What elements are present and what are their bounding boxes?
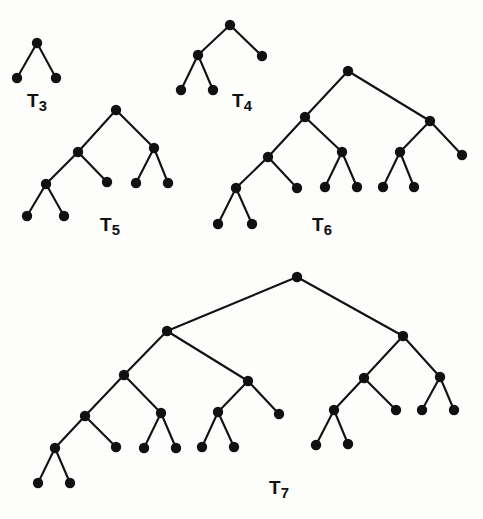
tree-diagram-canvas bbox=[0, 0, 483, 519]
tree-edge bbox=[17, 43, 37, 78]
tree-edge bbox=[248, 381, 279, 414]
tree-edge bbox=[325, 152, 342, 187]
tree-label-t4: T4 bbox=[232, 91, 252, 110]
tree-label-subscript: 7 bbox=[281, 485, 289, 501]
tree-node bbox=[119, 370, 129, 380]
tree-edge bbox=[78, 152, 107, 182]
tree-edge bbox=[167, 331, 248, 381]
tree-edge bbox=[85, 375, 124, 416]
tree-edge bbox=[400, 152, 414, 187]
tree-node bbox=[359, 373, 369, 383]
tree-edge bbox=[161, 413, 176, 448]
tree-edge bbox=[348, 71, 430, 121]
tree-node bbox=[208, 85, 218, 95]
tree-label-t6: T6 bbox=[312, 215, 332, 234]
tree-t4 bbox=[176, 20, 267, 95]
tree-edge bbox=[38, 448, 55, 483]
tree-edge bbox=[85, 416, 116, 447]
tree-label-subscript: 3 bbox=[39, 98, 47, 114]
tree-node bbox=[225, 20, 235, 30]
tree-edge bbox=[268, 117, 305, 157]
tree-node bbox=[111, 105, 121, 115]
tree-node bbox=[32, 38, 42, 48]
tree-node bbox=[80, 411, 90, 421]
tree-edge bbox=[78, 110, 116, 152]
tree-label-t5: T5 bbox=[100, 215, 120, 234]
tree-edge bbox=[46, 184, 64, 216]
tree-node bbox=[425, 116, 435, 126]
tree-node bbox=[163, 178, 173, 188]
tree-label-base: T bbox=[312, 214, 324, 235]
tree-edge bbox=[124, 375, 161, 413]
tree-label-base: T bbox=[232, 90, 244, 111]
tree-node bbox=[229, 442, 239, 452]
tree-t7 bbox=[33, 272, 459, 488]
tree-edge bbox=[198, 55, 213, 90]
tree-edge bbox=[364, 336, 403, 378]
tree-edge bbox=[400, 121, 430, 152]
tree-edge bbox=[181, 55, 198, 90]
tree-node bbox=[274, 409, 284, 419]
tree-node bbox=[33, 478, 43, 488]
tree-node bbox=[176, 85, 186, 95]
tree-node bbox=[243, 376, 253, 386]
tree-t5 bbox=[22, 105, 173, 221]
tree-node bbox=[343, 66, 353, 76]
tree-edge bbox=[154, 148, 168, 183]
tree-edge bbox=[202, 412, 218, 447]
tree-node bbox=[111, 442, 121, 452]
tree-node bbox=[156, 408, 166, 418]
tree-node bbox=[73, 147, 83, 157]
tree-edge bbox=[236, 157, 268, 188]
tree-label-subscript: 5 bbox=[112, 222, 120, 238]
tree-node bbox=[320, 182, 330, 192]
tree-node bbox=[22, 211, 32, 221]
tree-node bbox=[50, 443, 60, 453]
tree-edge bbox=[430, 121, 462, 155]
tree-t3 bbox=[12, 38, 61, 83]
tree-edge bbox=[236, 188, 252, 224]
tree-node bbox=[193, 50, 203, 60]
tree-edge bbox=[27, 184, 46, 216]
tree-label-subscript: 4 bbox=[244, 98, 252, 114]
tree-edge bbox=[144, 413, 161, 448]
tree-node bbox=[329, 405, 339, 415]
tree-node bbox=[197, 442, 207, 452]
tree-label-t7: T7 bbox=[269, 478, 289, 497]
tree-edge bbox=[46, 152, 78, 184]
tree-edge bbox=[218, 188, 236, 224]
tree-edge bbox=[116, 110, 154, 148]
tree-edge bbox=[342, 152, 357, 187]
tree-edge bbox=[334, 410, 348, 444]
tree-node bbox=[378, 182, 388, 192]
tree-node bbox=[41, 179, 51, 189]
tree-node bbox=[263, 152, 273, 162]
tree-node bbox=[51, 73, 61, 83]
tree-edge bbox=[316, 410, 334, 445]
tree-node bbox=[213, 407, 223, 417]
tree-node bbox=[300, 112, 310, 122]
tree-node bbox=[139, 443, 149, 453]
tree-label-base: T bbox=[27, 90, 39, 111]
tree-edge bbox=[37, 43, 56, 78]
tree-node bbox=[65, 478, 75, 488]
tree-edge bbox=[334, 378, 364, 410]
tree-edge bbox=[198, 25, 230, 55]
tree-label-t3: T3 bbox=[27, 91, 47, 110]
tree-node bbox=[292, 183, 302, 193]
tree-node bbox=[247, 219, 257, 229]
tree-node bbox=[395, 147, 405, 157]
tree-edge bbox=[55, 416, 85, 448]
tree-edge bbox=[403, 336, 440, 377]
tree-node bbox=[457, 150, 467, 160]
tree-node bbox=[449, 405, 459, 415]
tree-node bbox=[343, 439, 353, 449]
tree-node bbox=[292, 272, 302, 282]
tree-node bbox=[59, 211, 69, 221]
tree-edge bbox=[230, 25, 262, 56]
tree-label-base: T bbox=[269, 477, 281, 498]
tree-edge bbox=[422, 377, 440, 410]
tree-node bbox=[162, 326, 172, 336]
tree-node bbox=[131, 178, 141, 188]
tree-node bbox=[391, 405, 401, 415]
